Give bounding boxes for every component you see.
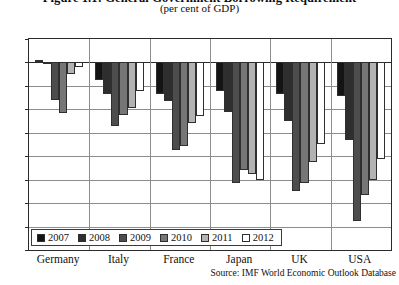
bar — [59, 62, 67, 112]
bar — [188, 62, 196, 123]
chart-legend: 200720082009201020112012 — [31, 229, 282, 246]
bar — [292, 62, 300, 191]
bar — [172, 62, 180, 150]
bar — [224, 62, 232, 111]
chart-subtitle: (per cent of GDP) — [0, 2, 399, 14]
bar — [232, 62, 240, 183]
bar — [284, 62, 292, 121]
bar — [337, 62, 345, 96]
legend-swatch-icon — [242, 234, 250, 242]
legend-item-2012[interactable]: 2012 — [242, 233, 274, 243]
plot-area — [28, 38, 392, 251]
bar — [216, 62, 224, 90]
bar-group — [29, 39, 89, 250]
legend-swatch-icon — [160, 234, 168, 242]
legend-swatch-icon — [119, 234, 127, 242]
bar — [369, 62, 377, 179]
bar — [361, 62, 369, 194]
x-axis-label-italy: Italy — [88, 253, 148, 265]
legend-label: 2012 — [253, 233, 274, 243]
bar — [111, 62, 119, 125]
bar — [353, 62, 361, 220]
legend-item-2010[interactable]: 2010 — [160, 233, 192, 243]
legend-label: 2010 — [171, 233, 192, 243]
y-tick-mark — [25, 250, 29, 251]
legend-item-2011[interactable]: 2011 — [201, 233, 233, 243]
bar — [256, 62, 264, 179]
bar — [136, 62, 144, 90]
bar — [43, 62, 51, 64]
bar — [180, 62, 188, 145]
legend-swatch-icon — [201, 234, 209, 242]
x-axis-label-uk: UK — [269, 253, 329, 265]
legend-swatch-icon — [78, 234, 86, 242]
bar-group — [150, 39, 210, 250]
legend-item-2009[interactable]: 2009 — [119, 233, 151, 243]
legend-label: 2008 — [89, 233, 110, 243]
source-note: Source: IMF World Economic Outlook Datab… — [210, 268, 396, 278]
bar — [300, 62, 308, 183]
legend-item-2007[interactable]: 2007 — [37, 233, 69, 243]
legend-label: 2011 — [212, 233, 233, 243]
x-axis-label-japan: Japan — [209, 253, 269, 265]
legend-label: 2009 — [130, 233, 151, 243]
bar — [119, 62, 127, 115]
bar-group — [89, 39, 149, 250]
x-axis-label-france: France — [149, 253, 209, 265]
bar — [345, 62, 353, 139]
bar — [196, 62, 204, 116]
bar — [276, 62, 284, 94]
bar — [317, 62, 325, 144]
bar — [75, 62, 83, 67]
legend-label: 2007 — [48, 233, 69, 243]
bar — [51, 62, 59, 100]
bar — [248, 62, 256, 173]
bar — [309, 62, 317, 162]
legend-item-2008[interactable]: 2008 — [78, 233, 110, 243]
bar — [240, 62, 248, 170]
bar — [67, 62, 75, 74]
x-axis-label-germany: Germany — [28, 253, 88, 265]
bar-group — [331, 39, 391, 250]
bar-group — [270, 39, 330, 250]
bar — [377, 62, 385, 158]
bar — [164, 62, 172, 101]
x-axis-label-usa: USA — [330, 253, 390, 265]
bar — [103, 62, 111, 94]
bar — [35, 60, 43, 62]
bar — [95, 62, 103, 80]
bar-group — [210, 39, 270, 250]
legend-swatch-icon — [37, 234, 45, 242]
bar — [128, 62, 136, 108]
bar — [156, 62, 164, 94]
